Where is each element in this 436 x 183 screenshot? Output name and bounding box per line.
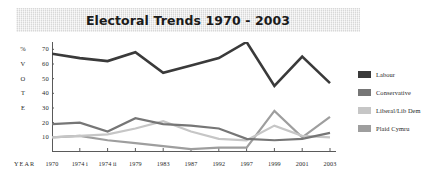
page-title: Electoral Trends 1970 - 2003 (86, 13, 290, 28)
legend-item[interactable]: Conservative (358, 84, 436, 100)
x-tick-label: 2001 (296, 160, 309, 167)
y-tick-label: 10 (42, 133, 49, 140)
x-tick-label: 1999 (268, 160, 281, 167)
y-tick-label: 70 (42, 45, 49, 52)
legend-item[interactable]: Liberal/Lib Dem (358, 102, 436, 118)
y-axis-title-char: T (16, 89, 30, 96)
y-axis-title-char: % (16, 45, 30, 52)
legend-label: Liberal/Lib Dem (376, 107, 421, 114)
x-tick-label: 1970 (46, 160, 59, 167)
x-tick-label: 1992 (212, 160, 225, 167)
y-axis-tick-labels: 70605040302010 (30, 42, 49, 152)
x-axis-tick-labels: 19701974 i1974 ii19791983198719921997199… (52, 160, 344, 172)
x-tick-label: 1979 (129, 160, 142, 167)
y-tick-label: 60 (42, 60, 49, 67)
x-tick-label: 1974 ii (99, 160, 117, 167)
y-axis-title-char: E (16, 104, 30, 111)
y-tick-label: 20 (42, 119, 49, 126)
y-axis-title: %VOTE (16, 42, 30, 152)
x-tick-label: 1987 (185, 160, 198, 167)
legend-swatch-icon (358, 125, 371, 132)
x-tick-label: 1983 (157, 160, 170, 167)
x-tick-label: 1997 (240, 160, 253, 167)
y-axis-title-char: V (16, 60, 30, 67)
legend-label: Conservative (376, 89, 411, 96)
x-tick-label: 1974 i (72, 160, 88, 167)
legend-label: Labour (376, 71, 395, 78)
legend-item[interactable]: Labour (358, 66, 436, 82)
y-tick-label: 30 (42, 104, 49, 111)
x-tick-label: 2003 (324, 160, 337, 167)
y-tick-label: 50 (42, 75, 49, 82)
legend-label: Plaid Cymru (376, 125, 410, 132)
y-tick-label: 40 (42, 89, 49, 96)
chart-figure: Electoral Trends 1970 - 2003 %VOTE 70605… (0, 0, 436, 183)
series-lines (52, 42, 340, 152)
plot-area (52, 42, 340, 152)
legend-swatch-icon (358, 107, 371, 114)
chart-title-bar: Electoral Trends 1970 - 2003 (16, 8, 360, 32)
y-axis-title-char: O (16, 75, 30, 82)
chart-legend: LabourConservativeLiberal/Lib DemPlaid C… (358, 66, 436, 138)
legend-swatch-icon (358, 71, 371, 78)
x-axis-title: YEAR (14, 160, 35, 167)
legend-swatch-icon (358, 89, 371, 96)
legend-item[interactable]: Plaid Cymru (358, 120, 436, 136)
